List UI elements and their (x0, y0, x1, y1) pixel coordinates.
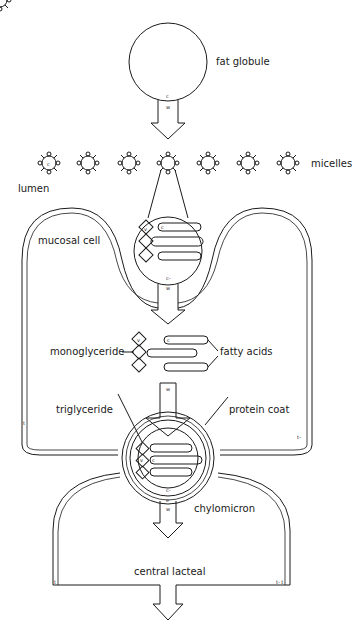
mark-c-minus: c- (166, 487, 171, 493)
mark-v: v (137, 337, 140, 343)
mark-t: t (23, 420, 25, 426)
mark-c: c (47, 161, 50, 167)
zoom-line-right (175, 170, 188, 218)
label-mucosal-cell: mucosal cell (38, 235, 100, 246)
mark-w: w (166, 386, 170, 392)
label-central-lacteal: central lacteal (134, 566, 206, 577)
label-triglyceride: triglyceride (56, 404, 113, 415)
mark-c: c (161, 224, 164, 230)
diagram-canvas (0, 0, 354, 629)
micelles-row (0, 0, 299, 174)
mark-c: c (152, 457, 155, 463)
central-lacteal-outline (53, 473, 290, 620)
arrow-down-5 (153, 585, 183, 620)
label-protein-coat: protein coat (229, 404, 289, 415)
mark-e: e (166, 497, 169, 503)
mark-t-minus: t- (297, 434, 301, 440)
fat-globule-circle (129, 23, 207, 101)
mark-v: v (140, 457, 143, 463)
mark-w: w (166, 285, 170, 291)
mark-w: w (166, 506, 170, 512)
mark-c: c (167, 337, 170, 343)
fatty-acids (147, 336, 218, 371)
mark-w: w (166, 104, 170, 110)
label-monoglyceride: monoglyceride (50, 346, 124, 357)
label-chylomicron: chylomicron (194, 503, 255, 514)
zoom-line-left (148, 170, 161, 218)
mark-v: v (144, 226, 147, 232)
zoom-molecule (139, 220, 203, 262)
mark-t: t (54, 579, 56, 585)
chylomicron (118, 394, 228, 504)
label-micelles: micelles (311, 158, 352, 169)
label-fat-globule: fat globule (216, 56, 270, 67)
mark-t-minus-t: t- t (276, 579, 283, 585)
label-lumen: lumen (18, 183, 49, 194)
mark-c-minus: c- (166, 275, 171, 281)
cropped-header (0, 0, 354, 6)
monoglyceride-molecule (122, 332, 146, 372)
label-fatty-acids: fatty acids (220, 346, 273, 357)
mark-c: c (166, 93, 169, 99)
